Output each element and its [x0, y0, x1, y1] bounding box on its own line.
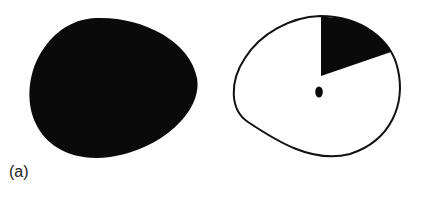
panel-label: (a) [9, 163, 29, 181]
center-dot [315, 87, 323, 98]
figure: (a) [0, 0, 421, 199]
figure-canvas [0, 0, 421, 199]
solid-blob [29, 18, 197, 158]
